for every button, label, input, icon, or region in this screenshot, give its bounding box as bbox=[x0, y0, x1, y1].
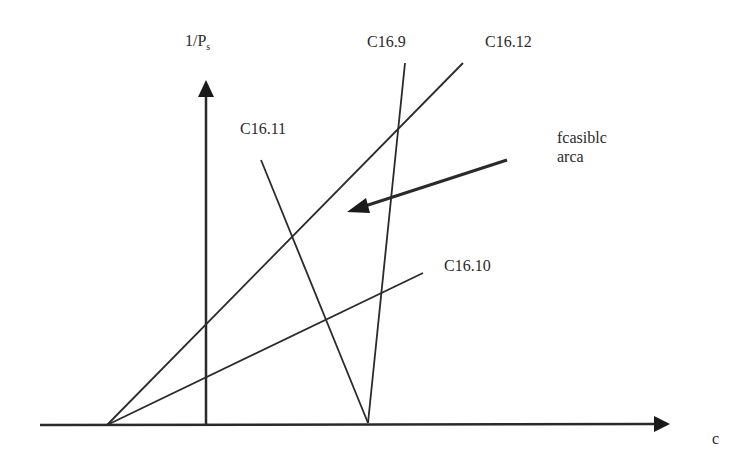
feasible-area-arrowhead-icon bbox=[347, 198, 370, 213]
label-c16-12: C16.12 bbox=[485, 33, 532, 51]
y-axis-label: 1/Ps bbox=[185, 32, 210, 52]
feasible-area-pointer bbox=[362, 160, 507, 207]
y-axis-label-main: 1/P bbox=[185, 32, 206, 49]
constraint-line-c16-11 bbox=[261, 160, 368, 423]
feasible-area-label-line1: fcasiblc bbox=[557, 128, 607, 147]
label-c16-11: C16.11 bbox=[240, 120, 286, 138]
feasible-area-label: fcasiblc arca bbox=[557, 128, 607, 166]
x-axis-label: c bbox=[712, 430, 719, 448]
constraint-line-c16-12 bbox=[107, 63, 463, 425]
x-axis bbox=[40, 424, 655, 425]
label-c16-9: C16.9 bbox=[367, 33, 406, 51]
y-axis-arrowhead-icon bbox=[198, 80, 214, 97]
constraint-line-c16-9 bbox=[368, 63, 405, 423]
diagram-canvas bbox=[0, 0, 748, 464]
feasible-area-label-line2: arca bbox=[557, 147, 607, 166]
x-axis-arrowhead-icon bbox=[654, 416, 670, 432]
label-c16-10: C16.10 bbox=[444, 257, 491, 275]
y-axis-label-sub: s bbox=[206, 41, 210, 52]
